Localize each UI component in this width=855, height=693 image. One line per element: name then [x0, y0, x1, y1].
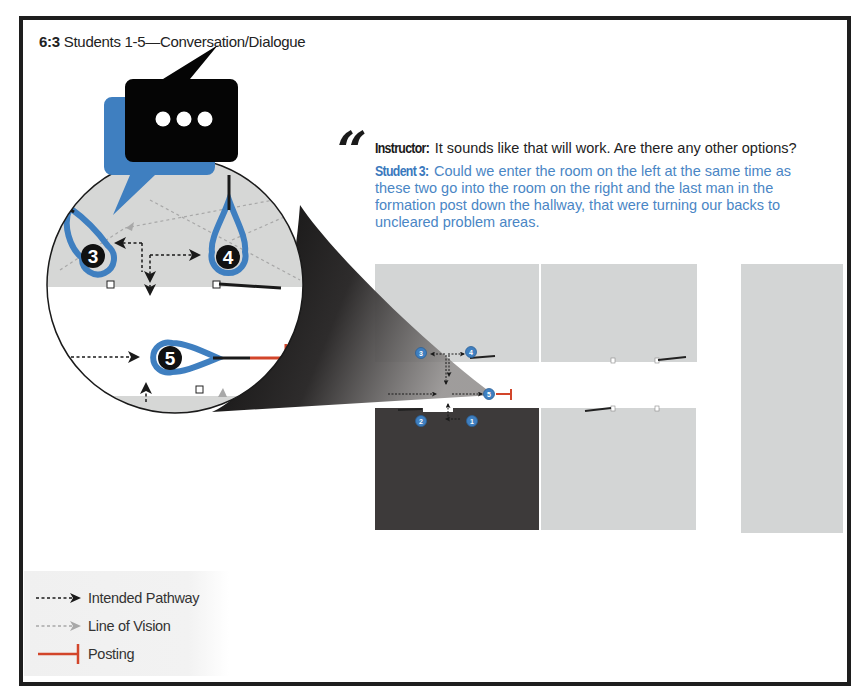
magnifier-student-3-label: 3 — [88, 246, 99, 267]
legend-item-pathway: Intended Pathway — [36, 587, 199, 609]
student-line: Student 3: Could we enter the room on th… — [375, 163, 795, 231]
svg-text:2: 2 — [419, 418, 423, 425]
student-text-4: uncleared problem areas. — [375, 214, 539, 230]
svg-text:4: 4 — [469, 349, 473, 356]
student-text-1: Could we enter the room on the left at t… — [434, 163, 791, 179]
svg-text:5: 5 — [487, 391, 491, 398]
svg-text:1: 1 — [470, 418, 474, 425]
legend: Intended Pathway Line of Vision Posting — [24, 571, 229, 676]
instructor-text: It sounds like that will work. Are there… — [435, 140, 797, 156]
magnifier-student-4-label: 4 — [223, 247, 234, 268]
instructor-line: Instructor: It sounds like that will wor… — [375, 140, 797, 156]
red-t-bar-icon — [36, 643, 82, 665]
dashed-arrow-black-icon — [36, 592, 82, 604]
quote-mark-icon: “ — [337, 125, 363, 177]
student-text-2: these two go into the room on the right … — [375, 180, 773, 196]
floor-plan-map — [375, 264, 843, 533]
legend-item-vision: Line of Vision — [36, 615, 171, 637]
student-text-3: formation post down the hallway, that we… — [375, 197, 780, 213]
instructor-speaker: Instructor: — [375, 140, 429, 156]
student-speaker: Student 3: — [375, 163, 428, 180]
dashed-arrow-gray-icon — [36, 620, 82, 632]
legend-item-posting: Posting — [36, 643, 134, 665]
svg-text:3: 3 — [419, 350, 423, 357]
magnifier-student-5-label: 5 — [165, 348, 176, 369]
